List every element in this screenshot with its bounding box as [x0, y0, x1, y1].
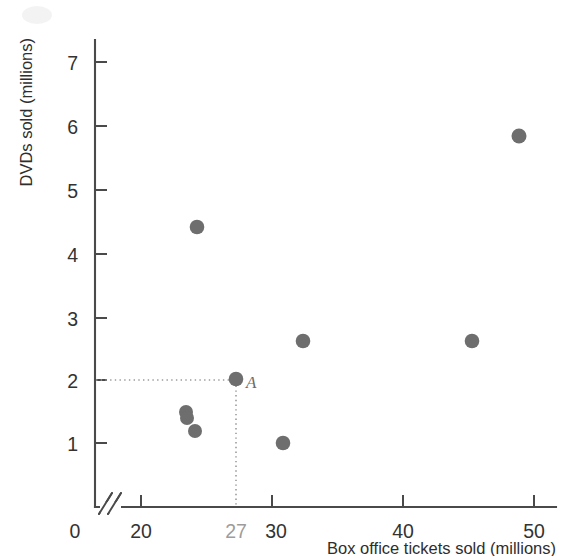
data-point [465, 334, 480, 349]
y-tick-label-3: 3 [67, 308, 78, 330]
y-tick-label-5: 5 [67, 180, 78, 202]
x-axis-break-icon [99, 493, 121, 514]
scatter-plot-figure: 7 6 5 4 3 2 1 0 20 27 30 40 50 A Box off… [0, 0, 563, 556]
y-tick-label-2: 2 [67, 370, 78, 392]
data-point [180, 411, 194, 425]
y-tick-label-6: 6 [67, 116, 78, 138]
y-tick-label-1: 1 [67, 433, 78, 455]
y-tick-label-7: 7 [67, 52, 78, 74]
y-tick-label-4: 4 [67, 244, 78, 266]
data-point [190, 220, 205, 235]
guide-line-to-point-a [96, 380, 236, 507]
data-point [188, 424, 202, 438]
x-origin-label: 0 [70, 520, 81, 542]
y-axis-title: DVDs sold (millions) [17, 38, 35, 187]
x-tick-label-20: 20 [130, 520, 152, 542]
data-point [276, 436, 291, 451]
plot-canvas: 7 6 5 4 3 2 1 0 20 27 30 40 50 A Box off… [0, 0, 563, 556]
x-tick-label-30: 30 [265, 520, 287, 542]
data-point [296, 334, 311, 349]
x-axis-title: Box office tickets sold (millions) [327, 539, 556, 556]
x-axis-ticks [141, 495, 534, 507]
data-markers [179, 129, 527, 451]
x-tick-label-27-highlight: 27 [225, 520, 247, 542]
y-axis-ticks [95, 62, 107, 443]
data-point [512, 129, 527, 144]
data-point-a [229, 372, 244, 387]
point-a-label: A [245, 373, 257, 392]
